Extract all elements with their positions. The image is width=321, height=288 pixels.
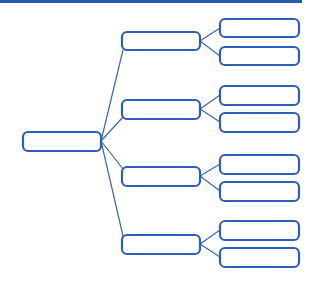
connector-b4-l1 xyxy=(200,230,220,244)
leaf-node-2-1 xyxy=(220,86,299,105)
branch-node-4 xyxy=(122,235,200,254)
connector-b4-l2 xyxy=(200,244,220,257)
leaf-node-3-1 xyxy=(220,155,299,174)
leaf-node-4-2 xyxy=(220,248,299,267)
root-node xyxy=(23,132,101,151)
leaf-node-1-2 xyxy=(220,47,299,65)
nodes xyxy=(23,19,299,267)
leaf-node-3-2 xyxy=(220,182,299,201)
connectors xyxy=(101,28,220,257)
leaf-node-1-1 xyxy=(220,19,299,37)
branch-node-1 xyxy=(122,32,200,50)
tree-diagram xyxy=(0,0,321,288)
connector-b1-l1 xyxy=(200,28,220,41)
branch-node-2 xyxy=(122,100,200,119)
connector-b2-l2 xyxy=(200,109,220,122)
leaf-node-2-2 xyxy=(220,113,299,132)
leaf-node-4-1 xyxy=(220,221,299,240)
connector-b2-l1 xyxy=(200,95,220,109)
connector-b3-l1 xyxy=(200,164,220,176)
connector-b1-l2 xyxy=(200,41,220,56)
connector-b3-l2 xyxy=(200,176,220,191)
connector-root-branch-1 xyxy=(101,50,123,141)
branch-node-3 xyxy=(122,167,200,186)
